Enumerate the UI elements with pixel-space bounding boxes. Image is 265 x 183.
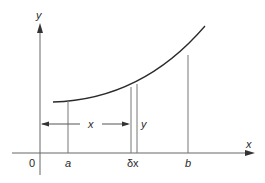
- delta-x-label: δx: [127, 157, 139, 169]
- arrow-right-icon: [122, 122, 130, 127]
- x-axis-label: x: [245, 138, 252, 150]
- x-axis: [12, 150, 255, 156]
- distance-x-label: x: [87, 118, 94, 130]
- y-axis: [37, 23, 43, 175]
- area-under-curve-diagram: y x 0 a δx b x y: [0, 0, 265, 183]
- distance-x-arrow: [41, 122, 130, 127]
- y-axis-arrow-icon: [37, 23, 43, 33]
- point-b-label: b: [185, 157, 191, 169]
- arrow-left-icon: [41, 122, 49, 127]
- y-axis-label: y: [35, 9, 43, 21]
- x-axis-arrow-icon: [245, 150, 255, 156]
- function-curve: [53, 26, 205, 102]
- point-a-label: a: [65, 157, 71, 169]
- origin-label: 0: [29, 157, 35, 169]
- strip-height-y-label: y: [140, 118, 148, 130]
